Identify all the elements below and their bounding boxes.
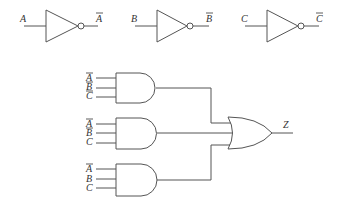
inverter-a-input-label: A	[19, 13, 27, 24]
inverter-c: C C	[241, 10, 323, 42]
and-gate-3: A B C	[85, 163, 157, 196]
and-gate-1: A B C	[85, 72, 155, 103]
inverter-b-output-label: B	[206, 13, 212, 24]
inverter-b-input-label: B	[131, 13, 137, 24]
or-output-label: Z	[283, 119, 289, 130]
and-gate-2: A B C	[85, 118, 156, 149]
inverter-c-output-label: C	[316, 13, 323, 24]
and3-input-c: C	[86, 182, 93, 193]
interconnect-wires	[156, 88, 234, 180]
inverter-b: B B	[131, 10, 213, 42]
logic-circuit-diagram: A A B B C C A B C	[0, 0, 340, 204]
inverter-a: A A	[19, 10, 103, 42]
inverter-c-input-label: C	[241, 13, 248, 24]
and2-input-c: C	[86, 136, 93, 147]
or-gate: Z	[228, 117, 293, 149]
inverter-a-output-label: A	[95, 13, 103, 24]
and1-input-c: C	[86, 90, 93, 101]
